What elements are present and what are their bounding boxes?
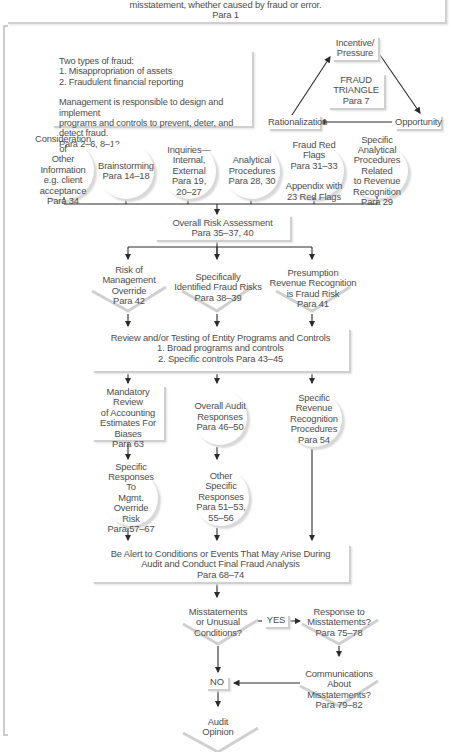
input-text: Fraud Red Flags (284, 140, 344, 161)
review-testing-controls-box: Review and/or Testing of Entity Programs… (92, 328, 349, 371)
circle-text: 55–56 (193, 513, 249, 523)
specific-revenue-procedures: Specific Revenue Recognition Procedures … (286, 391, 342, 447)
other-specific-responses: Other Specific Responses Para 51–53, 55–… (193, 468, 249, 526)
input-specific-analytical: Specific Analytical Procedures Related t… (346, 143, 408, 199)
fraud-types-box: Two types of fraud: 1. Misappropriation … (52, 50, 252, 126)
info-line-3: 2. Fraudulent financial reporting (59, 77, 252, 87)
circle-text: Para 46–50 (194, 422, 245, 432)
input-fraud-red-flags: Fraud Red Flags Para 31–33 Appendix with… (284, 143, 344, 199)
triangle-incentive-box: Incentive/ Pressure (332, 36, 378, 60)
input-text: Para 14–18 (98, 171, 154, 181)
input-text: Para 28, 30 (229, 176, 276, 186)
scope-header-box: misstatement, whether caused by fraud or… (6, 0, 445, 22)
input-text: Para 29 (346, 197, 408, 207)
review-item-2: 2. Specific controls Para 43–45 (92, 354, 349, 364)
circle-text: Other Specific (193, 471, 249, 492)
input-brainstorming: Brainstorming Para 14–18 (98, 143, 154, 199)
decision-text: About Misstatements? (296, 679, 382, 700)
box-text: Para 63 (92, 439, 164, 449)
box-text: Mandatory Review (92, 387, 164, 408)
alert-para: Para 68–74 (92, 570, 349, 580)
info-line-1: Two types of fraud: (59, 56, 252, 66)
no-text: NO (206, 676, 228, 687)
fraud-triangle-center-box: FRAUD TRIANGLE Para 7 (328, 73, 384, 108)
decision-text: Para 75–78 (300, 628, 378, 638)
input-text: Procedures Related (346, 155, 408, 176)
risk-assessment-para: Para 35–37, 40 (155, 228, 290, 238)
info-line-4: Management is responsible to design and … (59, 97, 252, 118)
input-text: Consideration of (32, 134, 94, 155)
response-to-misstatements: Response to Misstatements? Para 75–78 (300, 607, 378, 638)
info-line-2: 1. Misappropriation of assets (59, 66, 252, 76)
circle-text: Para 54 (286, 435, 342, 445)
opportunity-label: Opportunity (395, 115, 441, 127)
decision-misstatements: Misstatements or Unusual Conditions? (180, 607, 256, 638)
input-text: Specific Analytical (346, 135, 408, 156)
input-analytical-procedures: Analytical Procedures Para 28, 30 (224, 143, 280, 199)
risk-text: Para 41 (268, 299, 358, 309)
input-text: Para 34 (32, 196, 94, 206)
overall-risk-assessment-box: Overall Risk Assessment Para 35–37, 40 (155, 215, 290, 240)
no-label: NO (206, 676, 228, 689)
decision-text: Conditions? (180, 628, 256, 638)
yes-text: YES (264, 614, 288, 625)
mgmt-override-responses: Specific Responses To Mgmt. Override Ris… (104, 470, 158, 526)
input-text: Other Information (32, 154, 94, 175)
circle-text: Mgmt. Override (104, 493, 158, 514)
risk-text: Para 38–39 (172, 293, 264, 303)
risk-identified-fraud-risks: Specifically Identified Fraud Risks Para… (172, 272, 264, 303)
pressure-label: Pressure (332, 48, 378, 58)
opinion-text: Opinion (190, 727, 246, 737)
input-other-information: Consideration of Other Information e.g. … (32, 140, 94, 200)
risk-management-override: Risk of Management Override Para 42 (92, 265, 166, 307)
rationalization-label: Rationalization (268, 115, 320, 127)
be-alert-box: Be Alert to Conditions or Events That Ma… (92, 544, 349, 582)
triangle-opportunity-box: Opportunity (395, 115, 441, 129)
overall-audit-responses: Overall Audit Responses Para 46–50 (193, 389, 247, 445)
input-text: 23 Red Flags (284, 192, 344, 202)
circle-text: Specific Revenue (286, 393, 342, 414)
mandatory-review-box: Mandatory Review of Accounting Estimates… (92, 385, 164, 440)
yes-label: YES (264, 614, 288, 627)
circle-text: Para 57–67 (104, 524, 158, 534)
header-para: Para 1 (6, 10, 445, 20)
risk-revenue-recognition: Presumption Revenue Recognition is Fraud… (268, 268, 358, 310)
input-text: Para 31–33 (284, 161, 344, 171)
circle-text: Responses To (104, 472, 158, 493)
input-inquiries: Inquiries— Internal, External Para 19, 2… (162, 143, 216, 199)
communications-misstatements: Communications About Misstatements? Para… (296, 669, 382, 711)
triangle-para: Para 7 (328, 96, 384, 106)
input-text: 20–27 (167, 187, 210, 197)
risk-text: Para 42 (92, 296, 166, 306)
triangle-rationalization-box: Rationalization (268, 115, 320, 129)
decision-text: Para 79–82 (296, 700, 382, 710)
audit-opinion: Audit Opinion (190, 717, 246, 738)
